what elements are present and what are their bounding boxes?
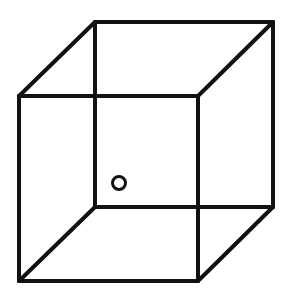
depth-edge xyxy=(198,207,273,281)
depth-edge xyxy=(19,22,95,96)
circle-marker xyxy=(113,177,126,190)
depth-edge xyxy=(198,22,273,96)
depth-edge xyxy=(19,207,95,281)
cube-edges xyxy=(19,22,273,281)
cube-drawing xyxy=(0,0,292,302)
necker-cube-figure xyxy=(0,0,292,302)
